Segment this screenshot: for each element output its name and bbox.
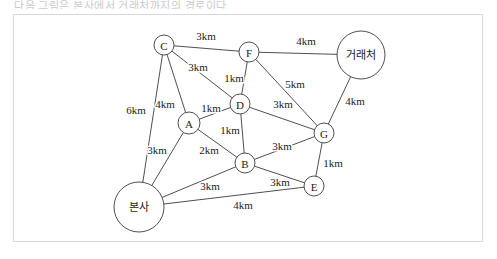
node-label-c: C xyxy=(160,40,167,52)
edge-a-hq xyxy=(152,132,184,185)
node-label-a: A xyxy=(185,118,193,130)
node-a[interactable]: A xyxy=(178,112,200,134)
node-dest[interactable]: 거래처 xyxy=(337,31,385,79)
edge-weight-text: 3km xyxy=(196,30,216,42)
edge-weight-text: 3km xyxy=(200,180,220,192)
node-label-d: D xyxy=(236,99,244,111)
edge-label-hq-b: 3km3km xyxy=(200,180,220,192)
node-b[interactable]: B xyxy=(235,153,255,173)
node-label-g: G xyxy=(320,128,328,140)
edge-weight-text: 3km xyxy=(270,176,290,188)
edge-weight-text: 3km xyxy=(272,140,292,152)
edge-label-a-hq: 3km3km xyxy=(147,144,167,156)
edge-weight-text: 1km xyxy=(224,72,244,84)
edge-weight-text: 3km xyxy=(188,61,208,73)
edge-label-d-g: 3km3km xyxy=(273,98,293,110)
edge-weight-text: 3km xyxy=(147,144,167,156)
edge-label-b-g: 3km3km xyxy=(272,140,292,152)
edge-weight-text: 1km xyxy=(220,124,240,136)
edge-label-f-g: 5km5km xyxy=(285,78,305,90)
edge-label-f-dest: 4km4km xyxy=(296,35,316,47)
edge-label-hq-e: 4km4km xyxy=(233,199,253,211)
edge-weight-text: 5km xyxy=(285,78,305,90)
edge-label-d-b: 1km1km xyxy=(220,124,240,136)
edge-label-b-e: 3km3km xyxy=(270,176,290,188)
edge-label-f-d: 1km1km xyxy=(224,72,244,84)
edge-weight-text: 4km xyxy=(345,95,365,107)
edge-c-f xyxy=(174,46,239,51)
edge-d-g xyxy=(249,107,314,129)
node-label-hq: 본사 xyxy=(129,201,149,214)
edge-weight-text: 2km xyxy=(199,144,219,156)
node-label-f: F xyxy=(246,47,252,59)
edge-label-dest-g: 4km4km xyxy=(345,95,365,107)
node-g[interactable]: G xyxy=(314,123,334,143)
edge-hq-b xyxy=(162,167,236,198)
edge-label-c-a: 4km4km xyxy=(155,98,175,110)
edge-label-a-b: 2km2km xyxy=(199,144,219,156)
edge-weight-text: 4km xyxy=(155,98,175,110)
edge-label-c-f: 3km3km xyxy=(196,30,216,42)
network-graph: CF거래처DAGBE본사 3km3km4km4km3km3km1km1km5km… xyxy=(0,0,497,259)
node-label-b: B xyxy=(241,158,248,170)
edge-label-c-hq: 6km6km xyxy=(126,104,146,116)
edge-g-e xyxy=(316,143,322,176)
edge-label-g-e: 1km1km xyxy=(323,157,343,169)
node-hq[interactable]: 본사 xyxy=(114,182,164,232)
edge-d-b xyxy=(241,114,244,153)
edge-weight-text: 1km xyxy=(323,157,343,169)
node-d[interactable]: D xyxy=(230,94,250,114)
edge-c-hq xyxy=(143,55,163,182)
edge-weight-text: 4km xyxy=(296,35,316,47)
node-e[interactable]: E xyxy=(304,176,324,196)
edge-weight-text: 6km xyxy=(126,104,146,116)
node-label-e: E xyxy=(311,181,318,193)
edge-label-c-d: 3km3km xyxy=(188,61,208,73)
edge-weight-text: 1km xyxy=(201,102,221,114)
node-f[interactable]: F xyxy=(239,42,259,62)
edge-label-a-d: 1km1km xyxy=(201,102,221,114)
edge-f-g xyxy=(256,59,317,125)
node-c[interactable]: C xyxy=(154,35,174,55)
node-label-dest: 거래처 xyxy=(346,49,376,62)
edge-f-dest xyxy=(259,52,337,54)
diagram-page: 다음 그림은 본사에서 거래처까지의 경로이다. CF거래처DAGBE본사 3k… xyxy=(0,0,497,259)
edge-weight-text: 3km xyxy=(273,98,293,110)
edge-c-d xyxy=(172,51,232,98)
edge-weight-text: 4km xyxy=(233,199,253,211)
